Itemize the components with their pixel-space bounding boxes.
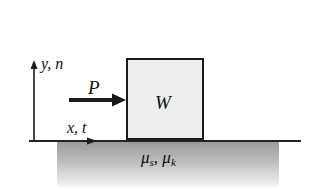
friction-coefficients-label: μs, μk: [141, 149, 176, 168]
weight-label: W: [155, 93, 171, 112]
kinetic-subscript: k: [171, 156, 176, 168]
free-body-diagram: y, n x, t P W μs, μk: [0, 0, 330, 189]
y-axis-arrow-icon: [31, 60, 38, 141]
mu-kinetic-symbol: μ: [162, 148, 171, 167]
force-label: P: [88, 78, 100, 97]
mu-static-symbol: μ: [141, 148, 150, 167]
horizontal-axis-label: x, t: [67, 120, 87, 136]
vertical-axis-label: y, n: [41, 56, 63, 72]
x-axis-arrow-icon: [87, 138, 97, 145]
